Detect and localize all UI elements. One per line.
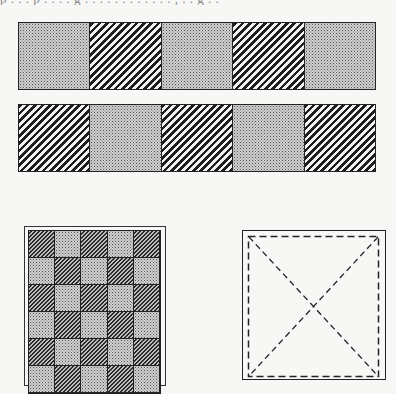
checker-square [81,312,107,339]
strip-cell-stipple [19,23,90,89]
checker-square [134,366,160,393]
checker-square [81,231,107,258]
checker-square [81,258,107,285]
checker-square [108,312,134,339]
dashed-x-icon [243,231,384,378]
checker-square [134,285,160,312]
checker-square [55,258,81,285]
strip-cell-hatch [305,105,375,171]
checker-square [81,285,107,312]
checker-square [108,231,134,258]
strip-cell-stipple [233,105,304,171]
checker-square [108,258,134,285]
checker-square [134,258,160,285]
checker-square [29,312,55,339]
checker-square [55,285,81,312]
checker-square [108,366,134,393]
checkerboard-grid [28,230,161,394]
checker-square [108,339,134,366]
checker-square [29,258,55,285]
strip-cell-stipple [90,105,161,171]
strip-cell-stipple [162,23,233,89]
checker-square [81,339,107,366]
checker-square [81,366,107,393]
pattern-strip-top [18,22,376,90]
checker-square [134,312,160,339]
checker-square [55,339,81,366]
checker-square [108,285,134,312]
pattern-strip-bottom [18,104,376,172]
strip-cell-hatch [162,105,233,171]
checker-square [134,231,160,258]
checkerboard-frame [24,226,166,386]
checker-square [55,231,81,258]
checker-square [29,366,55,393]
strip-cell-hatch [233,23,304,89]
dashed-x-box [242,230,386,380]
checker-square [134,339,160,366]
checker-square [29,339,55,366]
checker-square [29,285,55,312]
cut-off-text-line: p . . . p . . . . g . . . . . . . . . . … [0,0,396,5]
strip-cell-hatch [19,105,90,171]
checker-square [55,312,81,339]
strip-cell-hatch [90,23,161,89]
checker-square [55,366,81,393]
checker-square [29,231,55,258]
strip-cell-stipple [305,23,375,89]
